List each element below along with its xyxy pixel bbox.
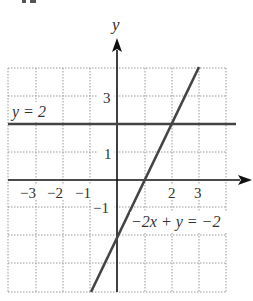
x-tick-3: 3	[194, 185, 202, 201]
x-tick-2: 2	[168, 185, 176, 201]
y-tick-3: 3	[103, 90, 111, 106]
x-axis-arrow-icon	[238, 175, 252, 185]
y-axis-arrow-icon	[112, 38, 122, 52]
y-axis-label: y	[110, 15, 120, 34]
x-axis	[8, 175, 252, 185]
x-tick-minus-2: −2	[47, 185, 63, 201]
x-tick-minus-3: −3	[20, 185, 36, 201]
y-tick-1: 1	[104, 146, 112, 162]
coordinate-plane: y 3 1 −1 −3 −2 −1 2 3 y = 2 −2x + y = −2	[0, 0, 253, 301]
graph-figure: y 3 1 −1 −3 −2 −1 2 3 y = 2 −2x + y = −2	[0, 0, 253, 301]
x-tick-minus-1: −1	[75, 185, 91, 201]
equation-label-y-equals-2: y = 2	[10, 103, 46, 121]
y-axis	[112, 38, 122, 292]
y-tick-minus-1: −1	[93, 200, 109, 216]
equation-label-minus-2x-plus-y: −2x + y = −2	[131, 213, 220, 231]
cropped-label-fragment	[22, 0, 36, 3]
